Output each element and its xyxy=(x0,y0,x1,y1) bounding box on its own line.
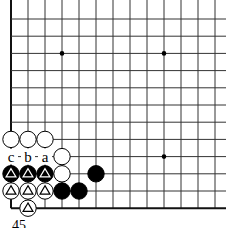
white-stone-icon xyxy=(20,131,36,147)
black-stone xyxy=(88,166,104,182)
white-stone xyxy=(37,131,53,147)
black-stone-triangle xyxy=(20,166,36,182)
white-stone xyxy=(20,131,36,147)
white-stone-icon xyxy=(54,148,70,164)
black-stone xyxy=(71,183,87,199)
stones xyxy=(3,131,104,216)
black-stone-icon xyxy=(54,183,70,199)
white-stone xyxy=(3,131,19,147)
white-stone-icon xyxy=(54,166,70,182)
go-board: cba xyxy=(0,0,226,228)
black-stone-triangle xyxy=(37,166,53,182)
black-stone-icon xyxy=(88,166,104,182)
star-point-icon xyxy=(60,51,65,56)
white-stone xyxy=(54,166,70,182)
black-stone-triangle xyxy=(3,166,19,182)
point-label-b: b xyxy=(24,149,32,165)
coordinate-labels: cba xyxy=(4,149,52,165)
white-stone-triangle xyxy=(20,183,36,199)
point-label-a: a xyxy=(42,149,49,165)
white-stone-triangle xyxy=(20,200,36,216)
star-point-icon xyxy=(162,51,167,56)
white-stone xyxy=(54,148,70,164)
white-stone-icon xyxy=(3,131,19,147)
black-stone-icon xyxy=(71,183,87,199)
point-label-c: c xyxy=(8,149,15,165)
white-stone-icon xyxy=(37,131,53,147)
white-stone-triangle xyxy=(3,183,19,199)
star-point-icon xyxy=(162,154,167,159)
black-stone xyxy=(54,183,70,199)
white-stone-triangle xyxy=(37,183,53,199)
diagram-caption: 45 xyxy=(12,219,26,228)
